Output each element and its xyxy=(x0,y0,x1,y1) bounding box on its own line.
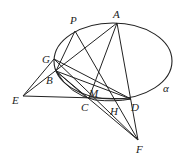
label-alpha: α xyxy=(163,83,169,94)
label-H: H xyxy=(110,106,118,117)
label-M: M xyxy=(89,88,98,99)
label-F: F xyxy=(136,144,143,155)
label-P: P xyxy=(70,15,77,26)
label-D: D xyxy=(131,102,139,113)
segments xyxy=(23,23,138,140)
label-E: E xyxy=(12,95,19,106)
label-A: A xyxy=(113,9,120,20)
label-C: C xyxy=(81,102,88,113)
label-B: B xyxy=(46,75,53,86)
geometry-diagram: A P G B E M C H D F α xyxy=(0,0,184,163)
diagram-canvas xyxy=(0,0,184,163)
label-G: G xyxy=(42,54,50,65)
